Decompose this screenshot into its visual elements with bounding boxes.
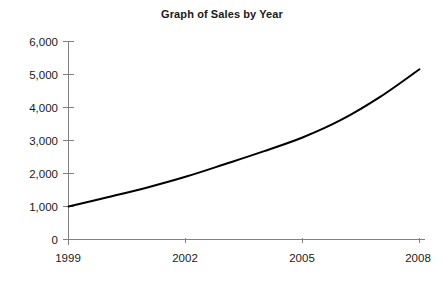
y-tick-label-2000: 2,000 <box>29 168 58 180</box>
x-tick-label-2002: 2002 <box>172 252 198 264</box>
x-tick-label-1999: 1999 <box>55 252 81 264</box>
y-tick-label-0: 0 <box>52 234 58 246</box>
x-tick-label-2005: 2005 <box>289 252 315 264</box>
chart-plot-area: 6,000 5,000 4,000 3,000 2,000 1,000 0 19… <box>0 0 444 283</box>
y-tick-label-5000: 5,000 <box>29 69 58 81</box>
x-tick-label-2008: 2008 <box>405 252 431 264</box>
sales-line-chart: Graph of Sales by Year 6,000 5,000 4,000… <box>0 0 444 283</box>
sales-data-curve <box>69 69 420 206</box>
y-tick-label-4000: 4,000 <box>29 102 58 114</box>
y-tick-label-3000: 3,000 <box>29 135 58 147</box>
y-tick-label-1000: 1,000 <box>29 201 58 213</box>
y-tick-label-6000: 6,000 <box>29 36 58 48</box>
